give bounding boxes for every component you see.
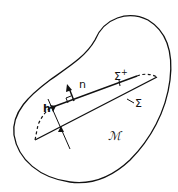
upper-surface-superscript: +	[121, 68, 128, 77]
upper-surface-dashed-end	[137, 74, 157, 77]
upper-surface-label: Σ+	[114, 69, 128, 82]
domain-boundary	[14, 16, 171, 183]
normal-arrowhead-icon	[66, 84, 72, 92]
thickness-label: h	[43, 103, 51, 114]
lower-surface-label: Σ	[135, 98, 142, 109]
upper-surface-symbol: Σ	[114, 70, 121, 83]
thickness-arrow-down-icon	[50, 105, 56, 112]
lower-surface-leader	[127, 99, 134, 103]
diagram-canvas: n h Σ+ Σ ℳ	[0, 0, 178, 192]
normal-label: n	[79, 79, 86, 90]
diagram-figure	[0, 0, 178, 192]
domain-label: ℳ	[108, 130, 121, 142]
